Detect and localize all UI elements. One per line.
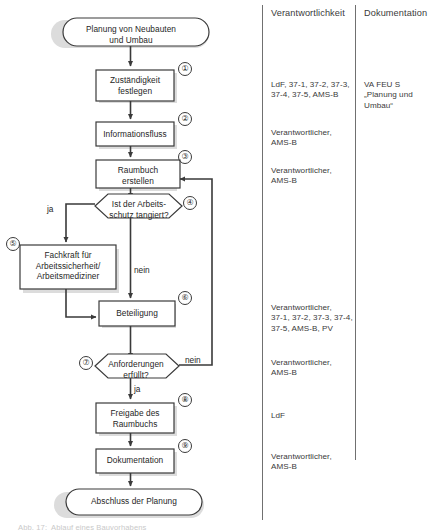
node-9-label: Dokumentation <box>96 455 174 466</box>
column-header-responsibility: Verantwortlichkeit <box>271 8 345 19</box>
step-number-8: ⑧ <box>178 393 192 407</box>
edge-label-decision4-no: nein <box>134 265 150 276</box>
column-header-documentation: Dokumentation <box>364 8 427 19</box>
step-number-2: ② <box>178 112 192 126</box>
edge-label-decision4-yes: ja <box>47 204 53 215</box>
step-number-6: ⑥ <box>178 291 192 305</box>
node-1-label: Zuständigkeit festlegen <box>96 75 174 96</box>
node-2-label: Informationsfluss <box>96 129 174 140</box>
step-number-3: ③ <box>178 150 192 164</box>
responsibility-cell-8: LdF <box>271 411 285 421</box>
responsibility-cell-3: Verantwortlicher, AMS-B <box>271 166 332 187</box>
responsibility-cell-6: Verantwortlicher, 37-1, 37-2, 37-3, 37-4… <box>271 303 353 334</box>
node-6-label: Beteiligung <box>99 308 175 319</box>
step-number-4: ④ <box>183 196 197 210</box>
step-number-7: ⑦ <box>79 356 93 370</box>
node-7-label: Anforderungen erfüllt? <box>96 359 176 380</box>
node-5-label: Fachkraft für Arbeitssicherheit/ Arbeits… <box>20 250 116 282</box>
responsibility-cell-7: Verantwortlicher, AMS-B <box>271 358 332 379</box>
responsibility-cell-9: Verantwortlicher, AMS-B <box>271 452 332 473</box>
node-start-label: Planung von Neubauten und Umbau <box>66 24 196 45</box>
node-4-label: Ist der Arbeits- schutz tangiert? <box>97 199 181 220</box>
documentation-cell-1: VA FEU S „Planung und Umbau“ <box>364 80 413 111</box>
node-8-label: Freigabe des Raumbuchs <box>96 408 174 429</box>
step-number-5: ⑤ <box>6 237 20 251</box>
figure-caption: Abb. 17: Ablauf eines Bauvorhabens <box>18 523 146 532</box>
node-end-label: Abschluss der Planung <box>79 496 189 507</box>
responsibility-cell-1: LdF, 37-1, 37-2, 37-3, 37-4, 37-5, AMS-B <box>271 80 350 101</box>
step-number-9: ⑨ <box>178 439 192 453</box>
node-3-label: Raumbuch erstellen <box>96 165 180 186</box>
responsibility-cell-2: Verantwortlicher, AMS-B <box>271 128 332 149</box>
flowchart-page: Planung von Neubauten und Umbau Zuständi… <box>0 0 436 532</box>
step-number-1: ① <box>178 62 192 76</box>
edge-label-decision7-yes: ja <box>134 384 140 395</box>
edge-label-decision7-no: nein <box>185 355 201 366</box>
